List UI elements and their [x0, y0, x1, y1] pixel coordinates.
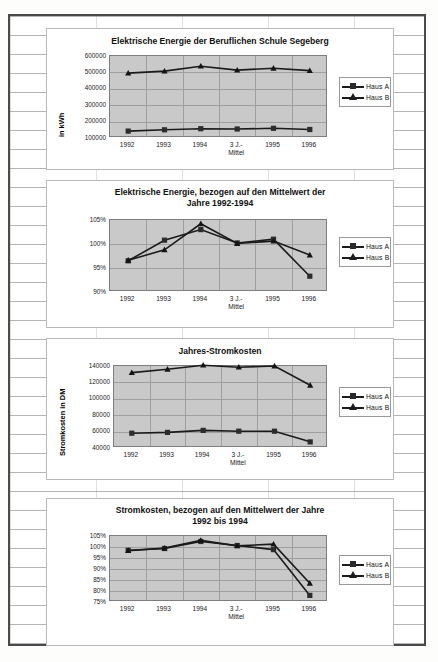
y-axis-tick-label: 400000 [47, 84, 106, 91]
chart-panel-energie-relativ: Elektrische Energie, bezogen auf den Mit… [46, 180, 394, 328]
data-point-marker [307, 127, 312, 132]
y-axis-tick-label: 85% [47, 576, 106, 583]
legend-item-haus-a: Haus A [342, 81, 386, 92]
series-layer [114, 366, 328, 448]
legend-label: Haus A [364, 83, 389, 90]
y-axis-tick-label: 140000 [47, 362, 110, 369]
legend-item-haus-a: Haus A [342, 391, 386, 402]
legend-item-haus-b: Haus B [342, 570, 386, 581]
data-point-marker [126, 129, 131, 134]
x-axis-tick-label-line2: Mittel [214, 613, 258, 621]
legend-marker-square-icon [342, 560, 364, 569]
data-point-marker [271, 547, 276, 552]
legend-item-haus-b: Haus B [342, 402, 386, 413]
y-axis-tick-label: 105% [47, 216, 106, 223]
y-axis-tick-label: 600000 [47, 52, 106, 59]
plot-area [109, 55, 327, 137]
series-line-haus-b [128, 66, 310, 73]
legend-label: Haus A [364, 243, 389, 250]
chart-legend: Haus A Haus B [339, 77, 391, 107]
series-line-haus-a [128, 128, 310, 131]
y-axis-tick-label: 300000 [47, 101, 106, 108]
legend-marker-square-icon [342, 392, 364, 401]
data-point-marker [201, 428, 206, 433]
y-axis-tick-label: 500000 [47, 68, 106, 75]
chart-title: Elektrische Energie der Beruflichen Schu… [47, 36, 393, 47]
y-axis-tick-label: 90% [47, 565, 106, 572]
data-point-marker [162, 127, 167, 132]
y-axis-tick-label: 60000 [47, 427, 110, 434]
y-axis-tick-label: 100% [47, 543, 106, 550]
y-axis-tick-label: 120000 [47, 378, 110, 385]
data-point-marker [235, 126, 240, 131]
chart-title: Jahres-Stromkosten [47, 346, 393, 357]
data-point-marker [308, 439, 313, 444]
plot-area [113, 365, 327, 447]
series-layer [110, 220, 328, 292]
legend-item-haus-a: Haus A [342, 241, 386, 252]
data-point-marker [198, 227, 203, 232]
scanned-page: Elektrische Energie der Beruflichen Schu… [0, 0, 438, 662]
x-axis-tick-label: 1996 [287, 141, 331, 149]
y-axis-tick-label: 105% [47, 532, 106, 539]
chart-title-line1: Stromkosten, bezogen auf den Mittelwert … [47, 505, 393, 516]
data-point-marker [272, 429, 277, 434]
x-axis-tick-label: 1996 [287, 605, 331, 613]
y-axis-tick-label: 90% [47, 288, 106, 295]
legend-label: Haus B [364, 94, 390, 101]
data-point-marker [198, 221, 204, 227]
y-axis-tick-label: 95% [47, 554, 106, 561]
chart-panel-stromkosten-relativ: Stromkosten, bezogen auf den Mittelwert … [46, 498, 394, 646]
y-axis-tick-label: 100% [47, 240, 106, 247]
legend-label: Haus B [364, 404, 390, 411]
chart-panel-stromkosten-absolut: Jahres-Stromkosten Stromkosten in DM Hau… [46, 338, 394, 480]
legend-label: Haus A [364, 393, 389, 400]
legend-marker-triangle-icon [342, 93, 364, 102]
plot-area [109, 219, 327, 291]
chart-legend: Haus A Haus B [339, 387, 391, 417]
data-point-marker [162, 238, 167, 243]
series-line-haus-b [132, 365, 310, 385]
legend-marker-square-icon [342, 82, 364, 91]
legend-label: Haus B [364, 572, 390, 579]
data-point-marker [307, 593, 312, 598]
series-line-haus-a [128, 542, 310, 596]
data-point-marker [236, 429, 241, 434]
legend-item-haus-a: Haus A [342, 559, 386, 570]
data-point-marker [271, 126, 276, 131]
x-axis-tick-label-line2: Mittel [214, 303, 258, 311]
legend-marker-triangle-icon [342, 571, 364, 580]
y-axis-tick-label: 200000 [47, 117, 106, 124]
data-point-marker [129, 431, 134, 436]
data-point-marker [165, 430, 170, 435]
legend-marker-triangle-icon [342, 253, 364, 262]
plot-area [109, 535, 327, 601]
y-axis-tick-label: 40000 [47, 444, 110, 451]
chart-legend: Haus A Haus B [339, 237, 391, 267]
y-axis-tick-label: 80000 [47, 411, 110, 418]
y-axis-tick-label: 95% [47, 264, 106, 271]
y-axis-tick-label: 100000 [47, 134, 106, 141]
chart-title-line2: Jahre 1992-1994 [47, 198, 393, 209]
x-axis-tick-label-line2: Mittel [216, 459, 260, 467]
chart-title-line2: 1992 bis 1994 [47, 516, 393, 527]
data-point-marker [307, 274, 312, 279]
series-line-haus-a [132, 430, 310, 441]
y-axis-tick-label: 80% [47, 587, 106, 594]
y-axis-tick-label: 100000 [47, 394, 110, 401]
legend-item-haus-b: Haus B [342, 252, 386, 263]
legend-label: Haus A [364, 561, 389, 568]
x-axis-tick-label-line2: Mittel [214, 149, 258, 157]
legend-label: Haus B [364, 254, 390, 261]
chart-panel-energie-absolut: Elektrische Energie der Beruflichen Schu… [46, 28, 394, 170]
y-axis-tick-label: 75% [47, 598, 106, 605]
series-line-haus-b [128, 224, 310, 260]
legend-item-haus-b: Haus B [342, 92, 386, 103]
series-layer [110, 536, 328, 602]
series-layer [110, 56, 328, 138]
data-point-marker [198, 126, 203, 131]
chart-legend: Haus A Haus B [339, 555, 391, 585]
chart-title-line1: Elektrische Energie, bezogen auf den Mit… [47, 187, 393, 198]
x-axis-tick-label: 1996 [287, 295, 331, 303]
legend-marker-square-icon [342, 242, 364, 251]
